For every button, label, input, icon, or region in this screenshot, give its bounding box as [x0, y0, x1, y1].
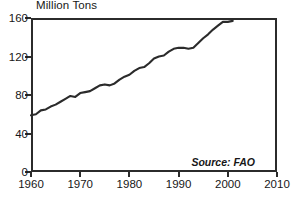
- x-tick-mark: [178, 172, 180, 177]
- x-tick-mark: [79, 172, 81, 177]
- line-series-world-fish-catch: [31, 21, 233, 115]
- source-annotation: Source: FAO: [191, 156, 255, 168]
- chart-container: Million Tons 04080120160 196019701980199…: [0, 0, 291, 201]
- x-tick-label: 2000: [215, 178, 241, 190]
- data-series-layer: [31, 18, 277, 172]
- y-tick-label: 40: [15, 128, 28, 140]
- x-tick-label: 1980: [117, 178, 143, 190]
- x-tick-mark: [128, 172, 130, 177]
- x-tick-mark: [227, 172, 229, 177]
- y-tick-label: 0: [22, 166, 28, 178]
- chart-title: Million Tons: [36, 0, 97, 11]
- y-tick-label: 120: [9, 51, 28, 63]
- x-tick-label: 1970: [67, 178, 93, 190]
- y-tick-label: 80: [15, 89, 28, 101]
- y-tick-label: 160: [9, 12, 28, 24]
- y-axis: 04080120160: [0, 0, 28, 201]
- x-tick-mark: [30, 172, 32, 177]
- x-tick-mark: [276, 172, 278, 177]
- x-tick-label: 1960: [18, 178, 44, 190]
- x-tick-label: 1990: [166, 178, 192, 190]
- x-tick-label: 2010: [264, 178, 290, 190]
